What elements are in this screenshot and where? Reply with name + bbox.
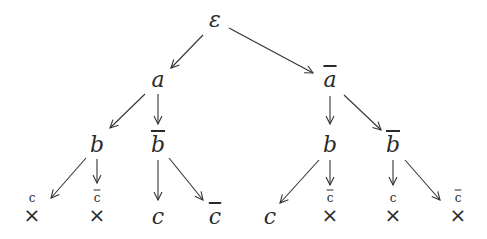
node-b-under-a-bar: b — [323, 134, 337, 156]
leaf-c-open-1: c — [152, 206, 164, 228]
cross-icon: × — [450, 205, 467, 225]
leaf-c-open-2: c — [264, 206, 276, 228]
cross-icon: × — [89, 205, 106, 225]
edge-eps-a — [171, 35, 203, 68]
leaf-c-closed-2: c × — [385, 192, 402, 225]
node-b-bar-under-a: b — [151, 134, 165, 156]
cross-icon: × — [385, 205, 402, 225]
node-a: a — [151, 69, 164, 91]
edge-b2-c — [280, 160, 319, 203]
tree-edges — [0, 0, 487, 239]
edge-bbar1-cbar — [169, 158, 203, 200]
cross-icon: × — [24, 205, 41, 225]
cross-icon: × — [322, 205, 339, 225]
node-root-epsilon: ε — [209, 9, 221, 31]
node-a-bar: a — [323, 69, 336, 91]
leaf-cbar-closed-1: c × — [89, 192, 106, 225]
edge-eps-abar — [229, 28, 313, 73]
node-b-under-a: b — [90, 134, 104, 156]
leaf-cbar-closed-3: c × — [450, 192, 467, 225]
edge-bbar2-cbar — [405, 160, 440, 200]
edge-b1-c — [51, 158, 86, 198]
leaf-c-closed-1: c × — [24, 192, 41, 225]
node-b-bar-under-a-bar: b — [386, 134, 400, 156]
leaf-cbar-open-1: c — [209, 206, 221, 228]
edge-abar-bbar — [344, 95, 381, 130]
leaf-cbar-closed-2: c × — [322, 192, 339, 225]
edge-a-b — [110, 94, 145, 128]
